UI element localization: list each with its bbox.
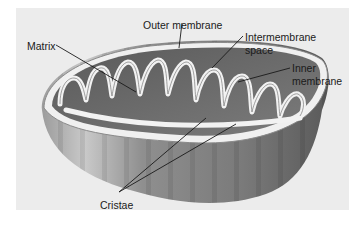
label-outer-membrane: Outer membrane xyxy=(143,19,222,31)
label-intermembrane-space-line2: space xyxy=(245,44,273,56)
label-cristae: Cristae xyxy=(100,199,133,211)
label-inner-membrane-line2: membrane xyxy=(292,75,342,87)
label-intermembrane-space-line1: Intermembrane xyxy=(245,31,316,43)
label-matrix: Matrix xyxy=(27,40,56,52)
label-inner-membrane-line1: Inner xyxy=(292,62,316,74)
